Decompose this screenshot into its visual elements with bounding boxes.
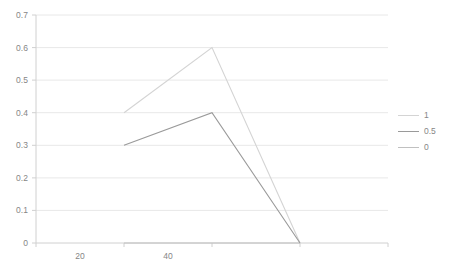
y-tick-label-0.3: 0.3 <box>2 140 28 150</box>
y-tick-label-0.2: 0.2 <box>2 173 28 183</box>
legend-swatch-icon-0 <box>398 147 419 148</box>
legend-swatch-icon-1 <box>398 115 419 116</box>
y-tick-label-0.1: 0.1 <box>2 205 28 215</box>
legend-label-0: 0 <box>424 143 429 152</box>
y-axis-ticks <box>32 15 36 243</box>
line-chart: 0.7 0.6 0.5 0.4 0.3 0.2 0.1 0 20 40 1 0.… <box>0 0 451 276</box>
plot-area <box>0 0 451 276</box>
y-tick-label-0.5: 0.5 <box>2 75 28 85</box>
legend-swatch-icon-0.5 <box>398 131 419 132</box>
x-tick-label-20: 20 <box>65 251 95 261</box>
y-tick-label-0.6: 0.6 <box>2 43 28 53</box>
legend-label-1: 1 <box>424 111 429 120</box>
x-axis-ticks <box>36 243 388 247</box>
legend-item-0[interactable]: 0 <box>398 139 450 155</box>
x-tick-label-40: 40 <box>153 251 183 261</box>
y-tick-label-0.7: 0.7 <box>2 10 28 20</box>
legend-item-0.5[interactable]: 0.5 <box>398 123 450 139</box>
chart-legend: 1 0.5 0 <box>398 107 450 155</box>
legend-item-1[interactable]: 1 <box>398 107 450 123</box>
y-tick-label-0.4: 0.4 <box>2 108 28 118</box>
y-tick-label-0: 0 <box>2 238 28 248</box>
legend-label-0.5: 0.5 <box>424 127 436 136</box>
